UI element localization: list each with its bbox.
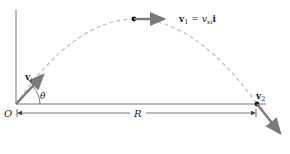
top-velocity-label: v1 = vxii	[178, 14, 216, 26]
trajectory-path	[16, 19, 257, 104]
final-velocity-label: v2	[255, 91, 265, 103]
initial-velocity-label: vi	[24, 72, 32, 84]
projectile-diagram: O θ R vi v1 = vxii v2	[0, 0, 290, 154]
angle-arc	[33, 87, 40, 104]
origin-label: O	[4, 108, 12, 119]
range-label: R	[133, 108, 142, 119]
angle-label: θ	[40, 91, 46, 101]
final-velocity-vector	[257, 104, 280, 133]
